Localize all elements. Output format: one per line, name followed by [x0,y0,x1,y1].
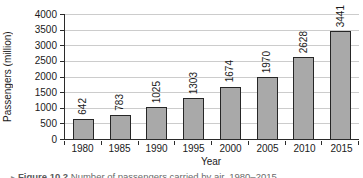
bar-cell: 3441 [322,14,359,139]
bar-1995 [183,98,204,139]
bar-series: 642783102513031674197026283441 [65,14,359,139]
bar-value-label: 1674 [225,60,235,82]
y-tick-mark [60,77,64,78]
y-tick-mark [60,61,64,62]
y-tick-label: 1500 [0,88,57,98]
bar-1990 [146,107,167,139]
x-tick-label: 1980 [64,143,101,154]
bar-2005 [257,77,278,139]
y-tick-mark [60,92,64,93]
bar-2015 [330,31,351,139]
bar-cell: 783 [102,14,139,139]
x-tick-label: 2015 [323,143,360,154]
bar-value-label: 783 [115,94,125,111]
y-tick-label: 3000 [0,41,57,51]
y-tick-mark [60,14,64,15]
bar-2010 [293,57,314,139]
x-axis-title: Year [64,156,358,167]
x-tick-label: 1995 [175,143,212,154]
bar-1985 [110,115,131,139]
bar-2000 [220,87,241,139]
bar-cell: 642 [65,14,102,139]
plot-area: 642783102513031674197026283441 [64,14,359,140]
y-tick-label: 0 [0,135,57,145]
y-tick-label: 2500 [0,56,57,66]
y-tick-label: 1000 [0,103,57,113]
bar-value-label: 3441 [336,5,346,27]
bar-1980 [73,119,94,139]
bar-cell: 1025 [139,14,176,139]
x-axis-tick-labels: 19801985199019952000200520102015 [64,143,360,154]
y-tick-label: 3500 [0,25,57,35]
y-tick-label: 2000 [0,72,57,82]
bar-value-label: 1303 [189,72,199,94]
x-tick-label: 1990 [138,143,175,154]
bar-cell: 1674 [212,14,249,139]
y-tick-mark [60,108,64,109]
figure-caption: ▸Figure 10.2 Number of passengers carrie… [11,171,277,178]
x-tick-label: 2010 [286,143,323,154]
caption-marker-icon: ▸ [11,173,15,178]
caption-text: Number of passengers carried by air, 198… [71,171,277,178]
bar-value-label: 642 [78,98,88,115]
y-tick-mark [60,123,64,124]
bar-value-label: 2628 [299,31,309,53]
caption-figure-number: Figure 10.2 [18,171,68,178]
y-tick-label: 500 [0,119,57,129]
bar-cell: 2628 [286,14,323,139]
bar-cell: 1303 [175,14,212,139]
bar-value-label: 1025 [152,81,162,103]
bar-chart-figure: Passengers (million) 6427831025130316741… [0,0,363,178]
bar-cell: 1970 [249,14,286,139]
x-tick-label: 1985 [101,143,138,154]
y-tick-mark [60,30,64,31]
y-tick-label: 4000 [0,10,57,20]
x-tick-label: 2000 [212,143,249,154]
x-tick-label: 2005 [249,143,286,154]
bar-value-label: 1970 [262,51,272,73]
y-tick-mark [60,45,64,46]
